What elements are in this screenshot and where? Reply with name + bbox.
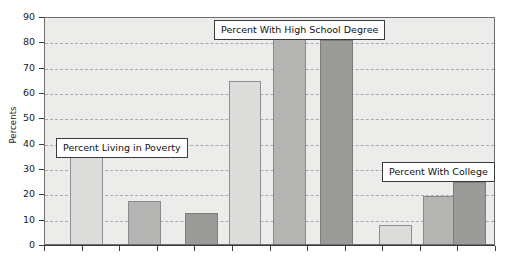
gridline bbox=[45, 43, 494, 44]
gridline bbox=[45, 69, 494, 70]
bar bbox=[379, 225, 412, 244]
x-axis-tick-mark bbox=[457, 246, 458, 251]
x-axis-tick-group bbox=[44, 246, 495, 252]
x-axis-tick-mark bbox=[307, 246, 308, 251]
plot-area bbox=[44, 17, 495, 245]
bar bbox=[229, 81, 262, 244]
y-axis-tick-label: 0 bbox=[29, 240, 35, 250]
gridline bbox=[45, 119, 494, 120]
x-axis-tick-mark bbox=[119, 246, 120, 251]
x-axis-tick-mark bbox=[157, 246, 158, 251]
y-axis-tick-label: 70 bbox=[23, 63, 35, 73]
x-axis-tick-mark bbox=[44, 246, 45, 251]
y-axis-tick-label: 10 bbox=[23, 215, 35, 225]
x-axis-tick-mark bbox=[194, 246, 195, 251]
x-axis-tick-mark bbox=[82, 246, 83, 251]
x-axis-tick-mark bbox=[420, 246, 421, 251]
y-axis-tick-label: 50 bbox=[23, 113, 35, 123]
bar bbox=[423, 196, 456, 244]
y-axis-tick-label: 80 bbox=[23, 37, 35, 47]
y-axis-tick-group: 0102030405060708090 bbox=[0, 0, 44, 261]
bar bbox=[320, 40, 353, 244]
bar bbox=[70, 154, 103, 244]
annotation-poverty: Percent Living in Poverty bbox=[56, 138, 188, 158]
y-axis-tick-label: 40 bbox=[23, 139, 35, 149]
bar bbox=[453, 182, 486, 244]
x-axis-tick-mark bbox=[495, 246, 496, 251]
x-axis-tick-mark bbox=[232, 246, 233, 251]
annotation-high-school: Percent With High School Degree bbox=[214, 20, 385, 40]
y-axis-tick-label: 90 bbox=[23, 12, 35, 22]
y-axis-tick-label: 60 bbox=[23, 88, 35, 98]
x-axis-tick-mark bbox=[270, 246, 271, 251]
bar bbox=[273, 35, 306, 244]
y-axis-tick-label: 20 bbox=[23, 189, 35, 199]
gridline bbox=[45, 94, 494, 95]
x-axis-tick-mark bbox=[345, 246, 346, 251]
y-axis-tick-label: 30 bbox=[23, 164, 35, 174]
bar-chart: Percents 0102030405060708090 Percent Liv… bbox=[0, 0, 511, 261]
bar bbox=[128, 201, 161, 244]
x-axis-tick-mark bbox=[382, 246, 383, 251]
annotation-college: Percent With College bbox=[382, 162, 495, 182]
bar bbox=[185, 213, 218, 244]
